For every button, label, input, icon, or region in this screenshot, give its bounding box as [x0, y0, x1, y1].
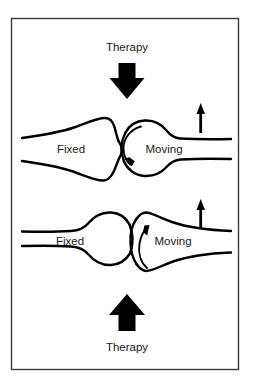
lower-moving-bone-top-contour: [136, 213, 231, 232]
lower-moving-bone-bottom-contour: [137, 253, 232, 272]
upper-fixed-bone-bottom-contour: [22, 159, 119, 181]
upper-fixed-label: Fixed: [57, 143, 85, 155]
lower-joint-panel: Fixed Moving: [22, 199, 231, 271]
upper-moving-bone-bottom-contour: [124, 159, 231, 176]
upper-moving-bone-top-contour: [126, 120, 232, 139]
upper-joint-panel: Fixed Moving: [22, 103, 231, 181]
lower-fixed-bone-top-contour: [22, 212, 130, 231]
therapy-label-bottom: Therapy: [106, 341, 148, 353]
therapy-arrow-down-icon: [110, 63, 145, 99]
figure-canvas: Therapy Fixed: [0, 0, 255, 392]
therapy-label-top: Therapy: [106, 41, 148, 53]
therapy-arrow-up-icon: [109, 294, 145, 331]
lower-fixed-label: Fixed: [56, 235, 84, 247]
lower-moving-label: Moving: [154, 235, 191, 247]
lower-fixed-bone-bottom-contour: [22, 246, 130, 265]
upper-moving-label: Moving: [145, 143, 182, 155]
lower-glide-arrow-head: [143, 225, 150, 236]
upper-motion-arrow-up-icon: [197, 103, 205, 133]
upper-fixed-bone-top-contour: [22, 118, 119, 141]
lower-motion-arrow-up-icon: [197, 199, 205, 228]
joint-mobilization-diagram: Therapy Fixed: [0, 0, 255, 392]
